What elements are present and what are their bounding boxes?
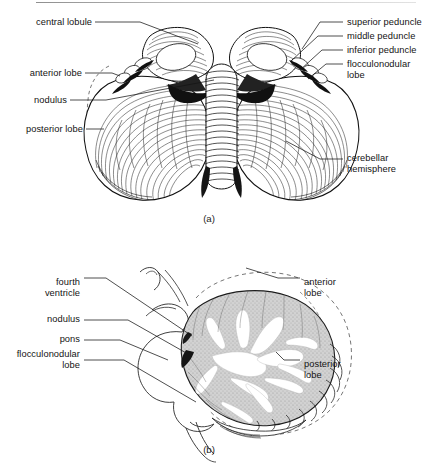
cerebellum-external-drawing: [70, 22, 359, 202]
panel-b-illustration: [0, 232, 443, 464]
label-middle-peduncle: middle peduncle: [347, 31, 415, 42]
label-fourth-ventricle: fourth ventricle: [4, 277, 80, 299]
caption-panel-b: (b): [179, 444, 239, 455]
label-posterior-lobe-b: posterior lobe: [304, 359, 341, 381]
label-cerebellar-hemisphere: cerebellar hemisphere: [347, 153, 396, 175]
label-pons: pons: [4, 334, 80, 345]
label-posterior-lobe: posterior lobe: [4, 124, 83, 135]
label-anterior-lobe: anterior lobe: [4, 68, 82, 79]
label-nodulus: nodulus: [4, 95, 67, 106]
cerebellum-figure: central lobule anterior lobe nodulus pos…: [0, 0, 443, 464]
label-central-lobule: central lobule: [4, 17, 92, 28]
label-flocculonodular-lobe-b: flocculonodular lobe: [2, 349, 80, 371]
label-nodulus-b: nodulus: [4, 314, 80, 325]
label-inferior-peduncle: inferior peduncle: [347, 45, 417, 56]
label-superior-peduncle: superior peduncle: [347, 17, 422, 28]
label-flocculonodular-lobe: flocculonodular lobe: [347, 59, 410, 81]
label-anterior-lobe-b: anterior lobe: [304, 277, 336, 299]
caption-panel-a: (a): [179, 213, 239, 224]
